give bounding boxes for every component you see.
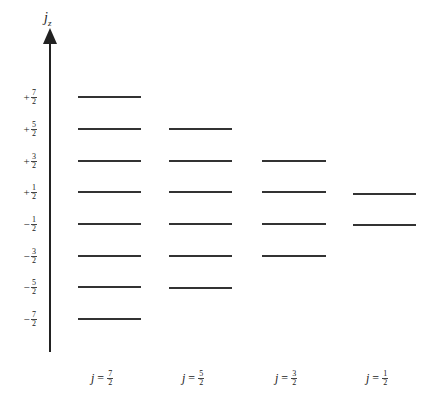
axis-label-subscript: z — [48, 18, 52, 28]
j-symbol: j — [182, 371, 185, 386]
energy-level-line — [78, 128, 141, 130]
axis-line — [49, 36, 51, 352]
tick-fraction: 32 — [31, 248, 37, 265]
column-label: j=32 — [275, 370, 297, 387]
tick-label: −52 — [22, 277, 46, 297]
j-symbol: j — [91, 371, 94, 386]
energy-level-line — [78, 160, 141, 162]
tick-label: +12 — [22, 182, 46, 202]
energy-level-line — [262, 223, 326, 225]
j-fraction: 52 — [198, 370, 204, 387]
tick-label: −32 — [22, 246, 46, 266]
tick-denominator: 2 — [32, 193, 36, 201]
tick-fraction: 72 — [31, 89, 37, 106]
j-denominator: 2 — [383, 379, 387, 387]
energy-level-line — [262, 255, 326, 257]
tick-sign: + — [22, 91, 31, 103]
energy-level-line — [169, 223, 232, 225]
tick-fraction: 52 — [31, 121, 37, 138]
tick-denominator: 2 — [32, 98, 36, 106]
energy-level-line — [78, 191, 141, 193]
tick-fraction: 52 — [31, 279, 37, 296]
j-symbol: j — [366, 371, 369, 386]
tick-fraction: 12 — [31, 184, 37, 201]
column-label: j=12 — [366, 370, 388, 387]
tick-sign: − — [22, 281, 31, 293]
energy-level-line — [169, 255, 232, 257]
tick-denominator: 2 — [32, 130, 36, 138]
tick-fraction: 12 — [31, 216, 37, 233]
energy-level-line — [353, 193, 416, 195]
column-label: j=72 — [91, 370, 113, 387]
arrow-up-icon — [43, 28, 57, 44]
j-fraction: 12 — [382, 370, 388, 387]
tick-label: −12 — [22, 214, 46, 234]
j-denominator: 2 — [292, 379, 296, 387]
energy-level-line — [169, 287, 232, 289]
tick-label: +72 — [22, 87, 46, 107]
energy-level-line — [169, 160, 232, 162]
tick-denominator: 2 — [32, 288, 36, 296]
j-denominator: 2 — [108, 379, 112, 387]
tick-fraction: 72 — [31, 311, 37, 328]
tick-sign: + — [22, 123, 31, 135]
energy-level-line — [78, 286, 141, 288]
j-fraction: 72 — [107, 370, 113, 387]
tick-sign: + — [22, 155, 31, 167]
tick-fraction: 32 — [31, 153, 37, 170]
energy-level-line — [78, 255, 141, 257]
energy-level-line — [78, 223, 141, 225]
energy-level-line — [169, 128, 232, 130]
tick-denominator: 2 — [32, 225, 36, 233]
tick-denominator: 2 — [32, 320, 36, 328]
energy-level-line — [262, 160, 326, 162]
energy-level-line — [78, 96, 141, 98]
equals-sign: = — [372, 371, 379, 386]
tick-label: −72 — [22, 309, 46, 329]
tick-sign: − — [22, 250, 31, 262]
j-denominator: 2 — [199, 379, 203, 387]
energy-level-line — [169, 191, 232, 193]
axis-label: jz — [44, 10, 51, 28]
tick-sign: + — [22, 186, 31, 198]
j-fraction: 32 — [291, 370, 297, 387]
tick-label: +52 — [22, 119, 46, 139]
j-symbol: j — [275, 371, 278, 386]
tick-denominator: 2 — [32, 162, 36, 170]
equals-sign: = — [188, 371, 195, 386]
energy-level-line — [262, 191, 326, 193]
tick-label: +32 — [22, 151, 46, 171]
tick-sign: − — [22, 313, 31, 325]
energy-level-line — [78, 318, 141, 320]
energy-level-line — [353, 224, 416, 226]
tick-sign: − — [22, 218, 31, 230]
equals-sign: = — [281, 371, 288, 386]
tick-denominator: 2 — [32, 257, 36, 265]
column-label: j=52 — [182, 370, 204, 387]
equals-sign: = — [97, 371, 104, 386]
